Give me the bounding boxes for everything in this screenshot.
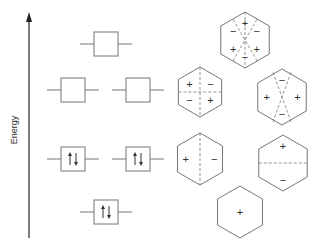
orbital-box [47,78,99,102]
orbital-square [126,147,150,171]
orbital-box [80,200,132,224]
orbital-square [61,78,85,102]
level-4-highest [80,32,132,56]
phase-sign-left: + [182,153,188,165]
phase-sign-bottom: − [279,108,285,120]
hexagon-psi2: +− [177,133,222,185]
phase-sign-lower-right: + [254,43,260,55]
orbital-square [61,147,85,171]
phase-sign-right: + [294,91,300,103]
phase-sign-lower-right: + [207,94,213,106]
level-3 [47,78,164,102]
level-2 [47,147,164,171]
phase-sign-top: + [280,140,286,152]
phase-sign-upper-right: − [254,25,260,37]
phase-sign-top: − [279,74,285,86]
hexagon-psi5: −++− [258,69,306,125]
phase-sign-lower-left: − [186,94,192,106]
level-1-lowest [80,200,132,224]
orbital-levels [47,32,164,224]
hexagon-psi4: +−−+ [178,67,221,117]
orbital-box [80,32,132,56]
energy-axis-arrowhead-icon [26,12,32,22]
phase-sign-upper-left: + [186,78,192,90]
energy-axis: Energy [9,12,32,238]
molecular-orbital-diagram: Energy +−−++−+−−+−++−+−+−+ [0,0,318,251]
orbital-square [94,32,118,56]
hexagon-psi6: +−−++− [221,12,269,68]
phase-sign-bottom: − [280,174,286,186]
phase-sign-right: − [211,153,217,165]
hexagon-psi3: +− [259,135,307,191]
energy-axis-label: Energy [9,115,19,144]
orbital-box [47,147,99,171]
phase-sign-left: + [263,91,269,103]
orbital-box [112,78,164,102]
orbital-box [112,147,164,171]
phase-sign-center: + [237,206,243,218]
phase-sign-upper-left: − [230,25,236,37]
orbital-square [94,200,118,224]
phase-sign-lower-left: + [230,43,236,55]
phase-sign-bottom: − [242,51,248,63]
orbital-hexagons: +−−++−+−−+−++−+−+−+ [177,12,307,238]
hexagon-psi1: + [217,186,262,238]
orbital-square [126,78,150,102]
phase-sign-top: + [242,17,248,29]
phase-sign-upper-right: − [207,78,213,90]
